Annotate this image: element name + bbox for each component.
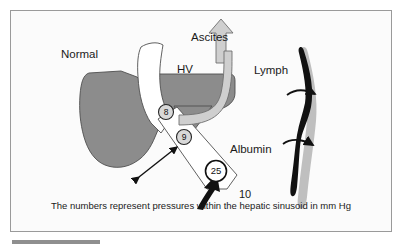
figure-caption: The numbers represent pressures within t…	[0, 201, 402, 211]
label-portal-pressure-10: 10	[239, 189, 251, 200]
diagram-panel: Normal Ascites HV Lymph Albumin 10 8 9 2…	[10, 10, 392, 232]
label-hepatic-vein: HV	[177, 64, 193, 76]
pressure-value-8: 8	[159, 108, 173, 117]
label-lymph: Lymph	[254, 65, 288, 77]
diagram-canvas	[11, 11, 392, 232]
hepatic-sinusoid-diagram: Normal Ascites HV Lymph Albumin 10 8 9 2…	[0, 0, 402, 251]
label-albumin: Albumin	[230, 144, 272, 156]
pressure-value-25: 25	[206, 166, 226, 176]
label-ascites: Ascites	[191, 32, 228, 44]
footer-rule	[12, 240, 100, 244]
label-normal: Normal	[61, 49, 98, 61]
pressure-value-9: 9	[177, 133, 191, 142]
